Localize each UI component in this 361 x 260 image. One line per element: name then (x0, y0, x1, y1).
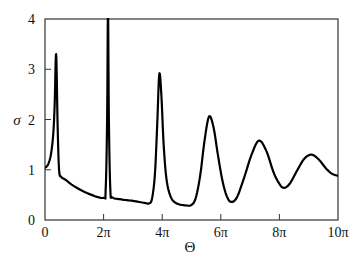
plot-frame (45, 19, 338, 220)
y-tick-label: 4 (28, 12, 35, 27)
x-tick-label: 4π (155, 225, 169, 240)
y-axis-label: σ (13, 112, 21, 128)
y-tick-label: 3 (28, 62, 35, 77)
x-axis-ticks: 02π4π6π8π10π (42, 214, 349, 240)
y-tick-label: 1 (28, 163, 35, 178)
data-curve (45, 9, 338, 206)
x-tick-label: 0 (42, 225, 49, 240)
x-axis-label: Θ (185, 239, 196, 255)
y-tick-label: 0 (28, 213, 35, 228)
x-tick-label: 2π (97, 225, 111, 240)
chart: 02π4π6π8π10π 01234 Θ σ (0, 0, 361, 260)
axes-box (45, 19, 338, 220)
x-tick-label: 6π (214, 225, 228, 240)
y-tick-label: 2 (28, 113, 35, 128)
x-tick-label: 10π (327, 225, 348, 240)
y-axis-ticks: 01234 (28, 12, 51, 228)
x-tick-label: 8π (272, 225, 286, 240)
